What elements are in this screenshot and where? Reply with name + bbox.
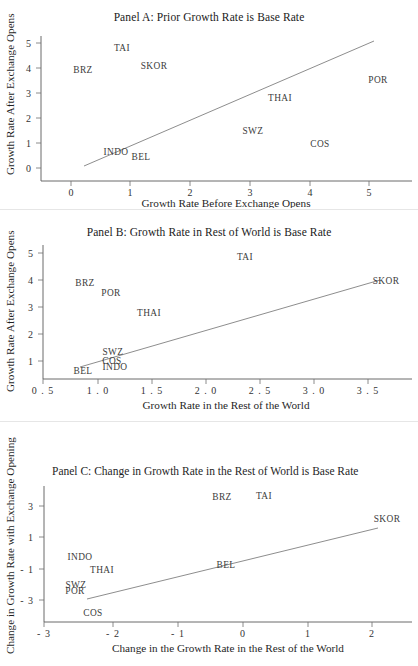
panel-a-y-ticks [36,43,41,168]
panel-c-label-BEL: BEL [217,560,236,570]
panel-a-label-SKOR: SKOR [141,61,168,71]
panel-b-xtick-4: 2 . 5 [249,385,272,396]
panel-a-label-BRZ: BRZ [73,65,92,75]
panel-a-label-BEL: BEL [132,152,151,162]
panel-b-label-BEL: BEL [74,366,93,376]
panel-a-ytick-2: 2 [26,113,31,124]
panel-a-xtick-5: 5 [367,187,372,198]
panel-a-ytick-1: 1 [26,138,31,149]
panel-b-y-ticklabels: 5 4 3 2 1 [28,248,33,367]
panel-a-x-ticks [71,181,369,186]
panel-c-ytick-neg3: - 3 [20,595,34,606]
panel-b-title: Panel B: Growth Rate in Rest of World is… [0,226,418,238]
panel-c-y-ticks [39,506,44,600]
panel-a-title: Panel A: Prior Growth Rate is Base Rate [0,11,418,23]
panel-b: Panel B: Growth Rate in Rest of World is… [0,212,418,420]
panel-b-plot: Growth Rate After Exchange Opens 5 4 3 2… [0,212,418,420]
panel-c-xlabel: Change in the Growth Rate in the Rest of… [112,642,344,654]
panel-c-label-TAI: TAI [256,491,272,501]
panel-b-xtick-5: 3 . 0 [303,385,326,396]
panel-b-xtick-1: 1 . 0 [87,385,110,396]
panel-c-ytick-3: 3 [28,501,34,512]
panel-c-label-SKOR: SKOR [374,514,401,524]
panel-a-ytick-0: 0 [26,163,31,174]
panel-c-label-POR: POR [65,586,85,596]
panel-a-label-COS: COS [310,139,329,149]
panel-c-xtick-neg1: - 1 [171,628,185,639]
panel-b-ytick-4: 4 [28,275,33,286]
panel-b-xtick-6: 3 . 5 [357,385,380,396]
panel-divider-1 [0,209,418,210]
panel-a-label-SWZ: SWZ [243,126,264,136]
panel-c-xtick-2: 2 [369,628,375,639]
panel-b-point-labels: TAI SKOR BRZ POR THAI SWZ COS INDO BEL [74,252,400,376]
panel-b-ytick-3: 3 [28,302,33,313]
panel-c-ylabel: Change in Growth Rate with Exchange Open… [4,437,16,654]
panel-c-title: Panel C: Change in Growth Rate in the Re… [52,465,358,478]
panel-c-ytick-1: 1 [28,532,34,543]
panel-c-ytick-neg1: - 1 [20,564,34,575]
panel-b-y-ticks [38,253,43,361]
panel-b-label-THAI: THAI [137,308,161,318]
panel-b-xtick-0: 0 . 5 [32,385,55,396]
panel-b-ytick-1: 1 [28,356,33,367]
panel-a-xlabel: Growth Rate Before Exchange Opens [142,197,311,208]
panel-c-x-ticks [44,622,372,627]
panel-c-label-THAI: THAI [90,565,114,575]
panel-divider-2 [0,421,418,422]
panel-b-xlabel: Growth Rate in the Rest of the World [143,399,310,411]
panel-c-xtick-0: 0 [240,628,246,639]
panel-a-xtick-0: 0 [69,187,74,198]
panel-c-xtick-neg3: - 3 [37,628,51,639]
panel-a-ytick-4: 4 [26,63,31,74]
panel-b-ylabel: Growth Rate After Exchange Opens [4,230,16,392]
panel-c-x-ticklabels: - 3 - 2 - 1 0 1 2 [37,628,375,639]
panel-c: Change in Growth Rate with Exchange Open… [0,424,418,666]
panel-c-label-BRZ: BRZ [212,492,231,502]
panel-b-ytick-2: 2 [28,329,33,340]
panel-a-y-ticklabels: 5 4 3 2 1 0 [26,38,31,174]
panel-c-y-ticklabels: 3 1 - 1 - 3 [20,501,34,606]
panel-a-label-THAI: THAI [268,93,292,103]
panel-a-xtick-1: 1 [128,187,133,198]
panel-b-label-POR: POR [101,288,121,298]
panel-c-xtick-neg2: - 2 [106,628,120,639]
panel-a-label-TAI: TAI [114,43,130,53]
panel-b-label-SKOR: SKOR [373,276,400,286]
panel-c-label-COS: COS [83,608,102,618]
panel-a-label-POR: POR [368,75,388,85]
panel-b-ytick-5: 5 [28,248,33,259]
panel-c-plot: Change in Growth Rate with Exchange Open… [0,424,418,666]
panel-b-xtick-2: 1 . 5 [141,385,164,396]
panel-a-plot: Growth Rate After Exchange Opens 5 4 3 2… [0,0,418,208]
panel-a-ylabel: Growth Rate After Exchange Opens [4,13,16,175]
panel-b-x-ticklabels: 0 . 5 1 . 0 1 . 5 2 . 0 2 . 5 3 . 0 3 . … [32,385,380,396]
panel-a-ytick-3: 3 [26,88,31,99]
three-panel-scatter-figure: Panel A: Prior Growth Rate is Base Rate … [0,0,418,666]
panel-b-label-INDO: INDO [102,362,127,372]
panel-b-label-BRZ: BRZ [75,278,94,288]
panel-b-label-TAI: TAI [237,252,253,262]
panel-b-x-ticks [43,379,368,384]
panel-c-xtick-1: 1 [305,628,311,639]
panel-a-label-INDO: INDO [103,147,128,157]
panel-b-xtick-3: 2 . 0 [195,385,218,396]
panel-b-fit-line [80,280,380,367]
panel-a-ytick-5: 5 [26,38,31,49]
panel-a: Panel A: Prior Growth Rate is Base Rate … [0,0,418,208]
panel-c-label-INDO: INDO [67,552,92,562]
panel-c-point-labels: BRZ TAI SKOR INDO THAI BEL SWZ POR COS [65,491,400,618]
